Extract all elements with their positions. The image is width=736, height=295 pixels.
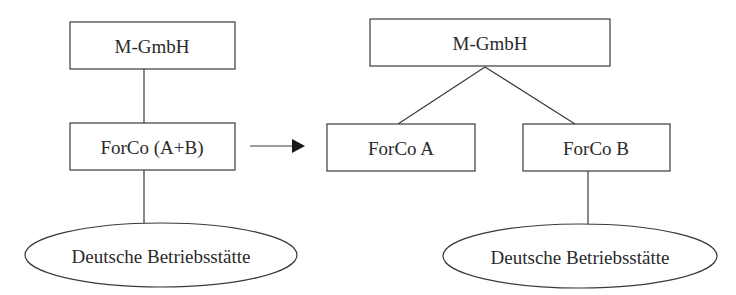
restructuring-diagram: M-GmbH ForCo (A+B) Deutsche Betriebsstät… <box>0 0 736 295</box>
node-forco-b: ForCo B <box>523 124 670 171</box>
node-label: ForCo (A+B) <box>100 137 203 159</box>
node-forco-ab: ForCo (A+B) <box>70 123 235 170</box>
arrow-right-icon <box>292 139 305 153</box>
node-betriebsstaette-after: Deutsche Betriebsstätte <box>443 224 717 288</box>
node-label: ForCo A <box>368 138 434 159</box>
node-betriebsstaette-before: Deutsche Betriebsstätte <box>25 223 297 287</box>
node-label: ForCo B <box>563 138 629 159</box>
connector-mgmbh-forco-b <box>485 67 575 124</box>
before-structure: M-GmbH ForCo (A+B) Deutsche Betriebsstät… <box>25 22 297 287</box>
connector-mgmbh-forco-a <box>398 67 485 124</box>
node-label: Deutsche Betriebsstätte <box>491 247 670 268</box>
node-label: M-GmbH <box>115 36 190 57</box>
node-forco-a: ForCo A <box>327 124 475 171</box>
node-m-gmbh-before: M-GmbH <box>70 22 235 69</box>
node-label: Deutsche Betriebsstätte <box>72 246 251 267</box>
node-m-gmbh-after: M-GmbH <box>370 19 610 66</box>
transition-arrow <box>250 139 305 153</box>
node-label: M-GmbH <box>453 33 528 54</box>
after-structure: M-GmbH ForCo A ForCo B Deutsche Betriebs… <box>327 19 717 288</box>
